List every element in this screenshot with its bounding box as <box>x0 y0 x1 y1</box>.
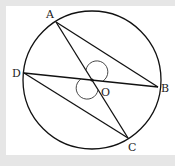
angle-doc-arc <box>76 79 98 99</box>
label-d: D <box>12 67 21 80</box>
geometry-diagram: A B C D O <box>0 0 175 166</box>
label-c: C <box>128 141 136 154</box>
center-point-o <box>90 78 93 81</box>
label-o: O <box>101 86 110 99</box>
label-b: B <box>161 82 169 95</box>
angle-aob-arc <box>86 61 108 81</box>
label-a: A <box>45 8 55 21</box>
